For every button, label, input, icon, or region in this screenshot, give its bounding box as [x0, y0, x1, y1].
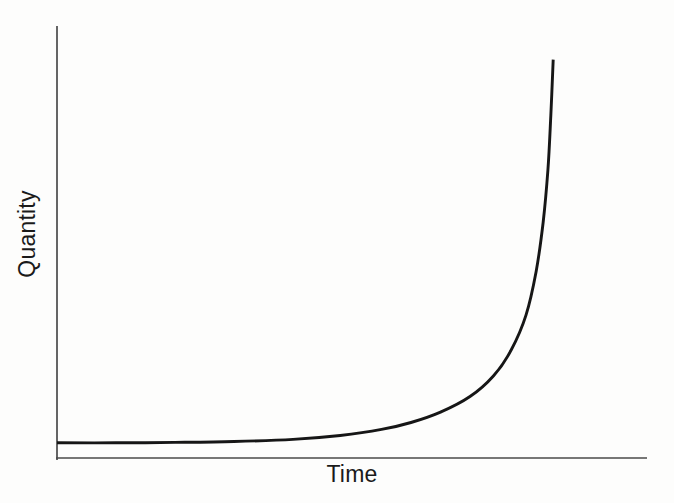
growth-curve [57, 60, 553, 443]
y-axis-label: Quantity [14, 190, 41, 277]
growth-curve-figure: Quantity Time [0, 0, 674, 503]
x-axis-label: Time [57, 461, 647, 488]
chart-canvas [0, 0, 674, 503]
